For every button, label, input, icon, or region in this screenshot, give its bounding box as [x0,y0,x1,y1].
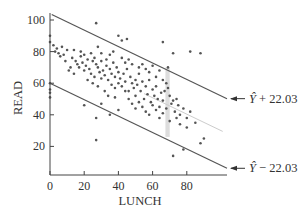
data-point [162,41,165,44]
data-point [81,61,84,64]
upper-band-line [52,14,227,98]
data-point [175,117,178,120]
data-point [186,126,189,129]
data-point [151,88,154,91]
data-point [86,79,89,82]
data-point [170,102,173,105]
data-point [78,66,81,69]
data-point [134,95,137,98]
data-point [156,98,159,101]
data-point [121,85,124,88]
data-point [138,72,141,75]
y-tick-label: 20 [33,139,45,153]
data-point [121,39,124,42]
data-point [144,85,147,88]
data-point [155,85,158,88]
x-tick-label: 20 [78,179,90,193]
data-point [199,52,202,55]
data-point [79,50,82,53]
data-point [69,66,72,69]
data-point [124,80,127,83]
data-point [151,65,154,68]
band-annotations: Ŷ + 22.03Ŷ − 22.03 [230,92,297,176]
data-point [74,60,77,63]
data-point [129,76,132,79]
data-point [103,90,106,93]
data-point [141,80,144,83]
data-point [62,53,65,56]
data-point [172,52,175,55]
data-point [203,137,206,140]
data-point [86,58,89,61]
data-point [61,46,64,49]
data-point [93,76,96,79]
data-point [131,82,134,85]
data-point [107,79,110,82]
data-point [138,101,141,104]
data-point [54,50,57,53]
data-point [112,50,115,53]
arrow-head-icon [230,96,237,101]
data-point [189,110,192,113]
data-point [153,95,156,98]
data-point [64,60,67,63]
data-point [141,106,144,109]
data-point [148,79,151,82]
data-point [109,68,112,71]
data-point [167,87,170,90]
data-point [155,109,158,112]
data-point [141,63,144,66]
data-point [71,57,74,60]
data-point [131,63,134,66]
y-tick-label: 40 [33,108,45,122]
highlight-band [165,67,169,137]
data-point [126,68,129,71]
x-tick-label: 80 [181,179,193,193]
data-point [114,87,117,90]
data-point [172,155,175,158]
data-point [107,95,110,98]
scatter-chart: 02040608020406080100 LUNCH READ Ŷ + 22.0… [0,0,308,221]
data-point [122,72,125,75]
data-point [68,69,71,72]
data-point [91,60,94,63]
data-point [114,76,117,79]
data-point [100,102,103,105]
data-point [127,98,130,101]
data-point [163,90,166,93]
data-point [158,69,161,72]
data-point [126,38,129,41]
data-point [95,63,98,66]
data-point [115,66,118,69]
data-point [151,104,154,107]
data-point [160,91,163,94]
data-point [112,61,115,64]
data-point [177,104,180,107]
data-point [105,58,108,61]
data-point [134,79,137,82]
data-point [165,82,168,85]
data-point [93,57,96,60]
data-point [103,74,106,77]
data-point [189,50,192,53]
data-point [97,85,100,88]
data-point [117,35,120,38]
data-point [102,69,105,72]
data-point [127,58,130,61]
data-point [117,82,120,85]
data-point [95,139,98,142]
data-point [85,65,88,68]
data-point [114,96,117,99]
upper-band-label: Ŷ + 22.03 [249,92,297,106]
data-point [139,90,142,93]
data-point [95,117,98,120]
data-point [182,148,185,151]
data-point [109,114,112,117]
data-point [158,106,161,109]
x-tick-label: 40 [112,179,124,193]
data-point [57,52,60,55]
y-tick-label: 60 [33,76,45,90]
data-point [91,82,94,85]
data-point [97,66,100,69]
regression-line [144,94,223,132]
